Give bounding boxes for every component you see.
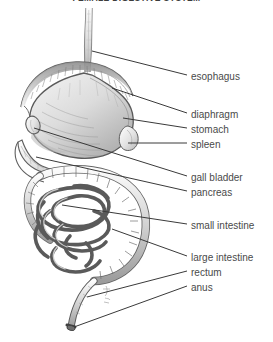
label-pancreas: pancreas [191,188,232,198]
leader-anus [74,286,187,327]
digestive-system-figure-page: FEMALE DIGESTIVE SYSTEM [0,0,273,342]
label-esophagus: esophagus [191,72,240,82]
digestive-system-diagram [0,0,273,342]
label-spleen: spleen [191,140,220,150]
label-rectum: rectum [191,268,222,278]
label-stomach: stomach [191,125,229,135]
label-anus: anus [191,283,213,293]
label-gall-bladder: gall bladder [191,173,243,183]
organ-small-intestine [35,186,109,272]
organ-stomach [30,73,134,158]
label-diaphragm: diaphragm [191,110,238,120]
label-large-intestine: large intestine [191,253,253,263]
label-small-intestine: small intestine [191,221,254,231]
artist-signature [103,286,110,303]
organ-anus [66,325,75,332]
organ-spleen [119,126,138,151]
organ-rectum [71,281,94,327]
leader-small-intestine [62,205,187,224]
